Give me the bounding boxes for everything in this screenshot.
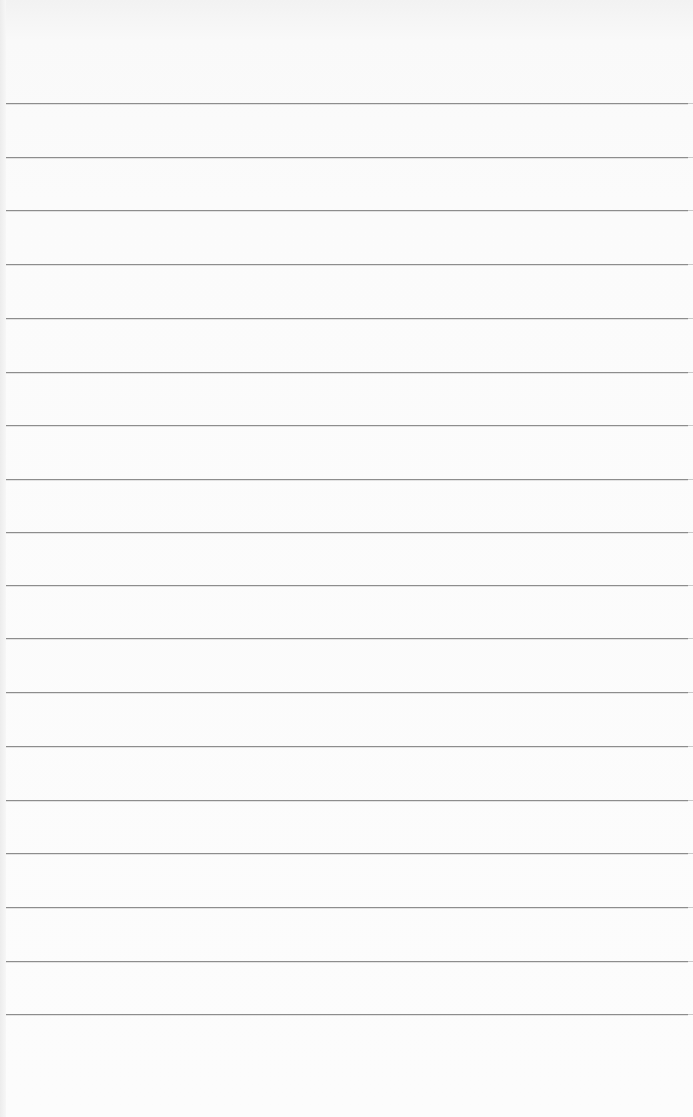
ruled-line bbox=[6, 585, 688, 586]
ruled-line-edge-tick bbox=[688, 638, 693, 639]
ruled-line bbox=[6, 264, 688, 265]
ruled-line bbox=[6, 1014, 688, 1015]
ruled-line bbox=[6, 372, 688, 373]
ruled-line-edge-tick bbox=[688, 532, 693, 533]
ruled-line-edge-tick bbox=[688, 425, 693, 426]
ruled-line-edge-tick bbox=[688, 961, 693, 962]
notepad-page bbox=[0, 0, 693, 1117]
ruled-line-edge-tick bbox=[688, 318, 693, 319]
ruled-line bbox=[6, 800, 688, 801]
ruled-line-edge-tick bbox=[688, 907, 693, 908]
ruled-line bbox=[6, 425, 688, 426]
ruled-line bbox=[6, 318, 688, 319]
ruled-line-edge-tick bbox=[688, 800, 693, 801]
ruled-line bbox=[6, 638, 688, 639]
ruled-line bbox=[6, 746, 688, 747]
ruled-line-edge-tick bbox=[688, 264, 693, 265]
ruled-line-edge-tick bbox=[688, 157, 693, 158]
ruled-line bbox=[6, 210, 688, 211]
ruled-line-edge-tick bbox=[688, 585, 693, 586]
ruled-line-edge-tick bbox=[688, 692, 693, 693]
ruled-line-edge-tick bbox=[688, 479, 693, 480]
page-left-edge bbox=[0, 0, 6, 1117]
ruled-line-edge-tick bbox=[688, 372, 693, 373]
ruled-line-edge-tick bbox=[688, 853, 693, 854]
ruled-line-edge-tick bbox=[688, 210, 693, 211]
ruled-line-edge-tick bbox=[688, 1014, 693, 1015]
ruled-line bbox=[6, 692, 688, 693]
ruled-line bbox=[6, 532, 688, 533]
ruled-line bbox=[6, 479, 688, 480]
ruled-line bbox=[6, 103, 688, 104]
ruled-line-edge-tick bbox=[688, 746, 693, 747]
ruled-line bbox=[6, 961, 688, 962]
ruled-line bbox=[6, 907, 688, 908]
ruled-line bbox=[6, 157, 688, 158]
ruled-line bbox=[6, 853, 688, 854]
ruled-line-edge-tick bbox=[688, 103, 693, 104]
